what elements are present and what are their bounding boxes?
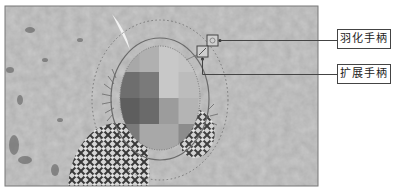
mosaic-cell	[140, 98, 160, 125]
expand-handle[interactable]	[197, 46, 208, 57]
mosaic-cell	[179, 98, 199, 125]
photo	[5, 6, 318, 188]
feather-handle[interactable]	[207, 35, 218, 46]
mosaic-cell	[159, 72, 179, 99]
figure-canvas	[0, 0, 394, 192]
mosaic-cell	[159, 98, 179, 125]
mosaic-cell	[179, 72, 199, 99]
mosaic-cell	[140, 72, 160, 99]
expand-handle-label: 扩展手柄	[337, 64, 391, 84]
feather-handle-label: 羽化手柄	[337, 29, 391, 49]
